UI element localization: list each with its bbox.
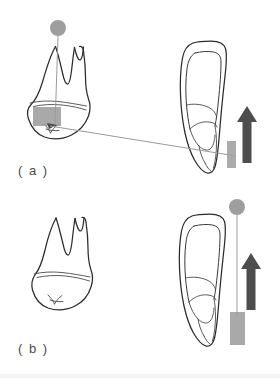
bracket-rect-a: [33, 107, 61, 126]
bracket-rect-lateral-a: [227, 141, 236, 168]
marker-dot-b: [229, 199, 245, 215]
bottom-caption: [0, 374, 280, 378]
bottom-caption-strip: [0, 374, 280, 378]
tooth-diagram-svg: ( a ): [0, 0, 280, 378]
marker-dot-a: [50, 20, 66, 36]
panel-label-b: ( b ): [18, 341, 49, 356]
panel-label-a: ( a ): [18, 163, 49, 178]
bracket-rect-b: [230, 312, 245, 345]
figure-root: ( a ): [0, 0, 280, 378]
